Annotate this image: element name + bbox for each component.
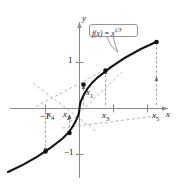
point-label-x3: x3 [102,111,109,122]
callout-function-exponent: 1/3 [115,27,122,33]
callout-function-base: f(x) = x [92,29,115,38]
y-tick-label-neg1: −1 [64,148,74,157]
tangent-line-x3 [36,66,112,107]
point-label-x2: x2 [63,110,70,121]
point-x4 [43,149,48,154]
y-tick-label-1: 1 [68,56,73,65]
point-x2 [67,131,72,136]
drop-lines-group [44,44,159,153]
point-label-x4-sub: 4 [51,114,54,121]
y-axis-label: y [82,14,86,23]
point-label-x5-sub: 5 [156,115,159,122]
axes-group [10,22,168,178]
point-label-x1: x1 [86,88,93,99]
point-label-x4: x4 [47,110,54,121]
point-label-x2-sub: 2 [67,114,70,121]
drop-arrow-x5 [155,76,159,81]
point-x3 [103,68,108,73]
point-x5 [154,40,159,45]
callout-function-label: f(x) = x1/3 [92,27,122,38]
point-label-x1-sub: 1 [90,92,93,99]
callout-tail [107,37,118,53]
point-label-x5: x5 [152,111,159,122]
curve-points-group [43,40,159,154]
x-axis-label: x [166,110,170,119]
point-label-x3-sub: 3 [106,115,109,122]
newtons-method-figure: f(x) = x1/3 x y −1 1 −1 x1 x2 x3 x4 x5 [0,0,177,184]
function-curve [8,42,156,172]
